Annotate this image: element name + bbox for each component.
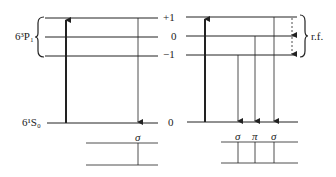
left-brace (35, 17, 44, 57)
right-sigma-minus-label: σ (235, 131, 240, 142)
left-spectrum (86, 143, 158, 165)
right-sigma-plus-label: σ (271, 131, 276, 142)
energy-level-diagram (0, 0, 336, 177)
m-level-0: 0 (171, 31, 177, 42)
rf-label: r.f. (311, 31, 323, 42)
ground-state-label: 6¹S₀ (22, 117, 41, 128)
right-excited-levels (186, 17, 297, 55)
m-level-minus-1: −1 (163, 49, 175, 60)
ground-m-level: 0 (168, 117, 174, 128)
m-level-plus-1: +1 (163, 12, 175, 23)
left-sigma-label: σ (135, 132, 140, 143)
excited-state-label: 6³P₁ (15, 31, 34, 42)
right-pi-label: π (252, 131, 258, 142)
left-excited-levels (45, 18, 158, 56)
rf-brace (300, 15, 308, 57)
right-spectrum (221, 142, 298, 163)
